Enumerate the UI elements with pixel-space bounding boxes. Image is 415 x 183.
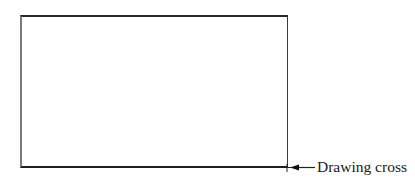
drawing-cross-marker: [284, 164, 291, 172]
annotation-graphics: [0, 0, 415, 183]
arrow-left-icon: [290, 165, 315, 171]
drawing-cross-label: Drawing cross: [317, 158, 407, 176]
